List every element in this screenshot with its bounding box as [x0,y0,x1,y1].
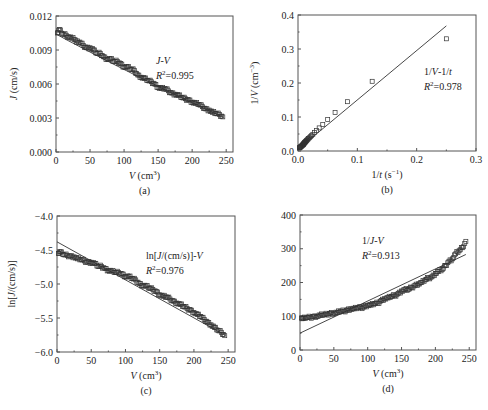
y-tick-label: −5.0 [35,279,53,290]
x-tick-label: 0.1 [351,154,364,165]
chart-panel-a: 0501001502002500.0000.0030.0060.0090.012… [8,11,234,198]
y-tick-label: 0.3 [282,44,295,55]
x-tick-label: 0 [298,353,303,364]
y-axis-label: ln[J/(cm/s)] [6,260,18,307]
x-axis-label: V (cm3) [129,169,160,182]
x-tick-label: 100 [360,353,375,364]
panel-label: (b) [381,184,393,196]
x-tick-label: 150 [394,353,409,364]
x-tick-label: 250 [219,155,234,166]
r-squared-label: R2=0.978 [423,80,462,92]
chart-panel-d: 05010015020025001002003004001/J-VR2=0.91… [281,210,477,396]
chart-panel-c: 050100150200250−6.0−5.5−5.0−4.5−4.0ln[J/… [6,211,236,398]
chart-panel-b: 0.00.10.20.30.00.10.20.30.41/V-1/tR2=0.9… [248,10,482,197]
x-axis-label: 1/t (s−1) [371,168,402,181]
panel-label: (a) [139,185,150,197]
x-axis-label: V (cm3) [373,367,404,380]
data-series [297,37,448,150]
panel-label: (d) [382,383,394,395]
y-tick-label: 200 [281,277,296,288]
x-tick-label: 150 [152,355,167,366]
y-tick-label: 0.003 [30,113,53,124]
data-series [56,250,226,338]
y-axis-label: J (cm/s) [8,68,20,101]
x-tick-label: 50 [329,353,339,364]
y-tick-label: −5.5 [35,313,53,324]
x-tick-label: 50 [86,355,96,366]
r-squared-label: R2=0.913 [361,249,400,261]
x-tick-label: 0 [55,355,60,366]
y-tick-label: 0.1 [282,112,295,123]
x-tick-label: 0.3 [470,154,483,165]
fit-equation-label: 1/V-1/t [424,66,452,77]
y-tick-label: 0.2 [282,78,295,89]
x-tick-label: 150 [151,155,166,166]
y-tick-label: 0.000 [30,147,53,158]
y-tick-label: −6.0 [35,347,53,358]
y-tick-label: 0.012 [30,11,53,22]
plot-frame [300,215,476,350]
y-tick-label: 0 [291,345,296,356]
data-series [55,28,224,119]
x-tick-label: 250 [462,353,477,364]
y-tick-label: 0.0 [282,146,295,157]
x-tick-label: 200 [185,155,200,166]
x-tick-label: 200 [186,355,201,366]
y-tick-label: 100 [281,311,296,322]
r-squared-label: R2=0.976 [145,264,184,276]
figure-canvas: 0501001502002500.0000.0030.0060.0090.012… [0,0,488,410]
x-tick-label: 50 [85,155,95,166]
fit-equation-label: J-V [156,55,172,66]
y-tick-label: 0.006 [30,79,53,90]
y-tick-label: −4.5 [35,245,53,256]
y-axis-label: 1/V (cm−3) [248,62,261,105]
fit-equation-label: 1/J-V [362,235,386,246]
y-tick-label: 300 [281,243,296,254]
r-squared-label: R2=0.995 [155,69,194,81]
panel-label: (c) [140,385,151,397]
y-tick-label: −4.0 [35,211,53,222]
x-tick-label: 250 [221,355,236,366]
x-tick-label: 200 [428,353,443,364]
y-tick-label: 0.009 [30,45,53,56]
x-axis-label: V (cm3) [131,369,162,382]
y-tick-label: 400 [281,210,296,221]
y-tick-label: 0.4 [282,10,295,21]
plot-frame [56,16,233,152]
x-tick-label: 100 [117,155,132,166]
x-tick-label: 0 [54,155,59,166]
fit-equation-label: ln[J/(cm/s)]-V [146,250,205,262]
x-tick-label: 0.2 [410,154,423,165]
x-tick-label: 100 [118,355,133,366]
